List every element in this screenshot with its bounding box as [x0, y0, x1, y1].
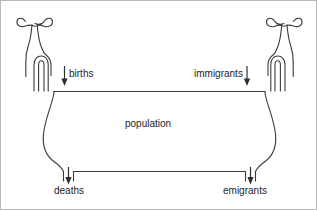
down-arrow-icon-immigrants — [244, 66, 250, 86]
down-arrow-icon-deaths — [65, 167, 71, 185]
label-immigrants: immigrants — [194, 69, 243, 79]
down-arrow-icon-emigrants — [247, 167, 253, 185]
label-emigrants: emigrants — [223, 186, 267, 196]
label-births: births — [69, 69, 93, 79]
diagram-canvas — [1, 1, 317, 210]
tap-icon-immigrants — [266, 18, 302, 91]
tap-icon-births — [17, 18, 53, 91]
population-flow-diagram: births immigrants population deaths emig… — [0, 0, 317, 210]
down-arrow-icon-births — [61, 66, 67, 86]
label-population: population — [125, 119, 171, 129]
label-deaths: deaths — [54, 186, 84, 196]
population-vessel — [43, 92, 276, 182]
